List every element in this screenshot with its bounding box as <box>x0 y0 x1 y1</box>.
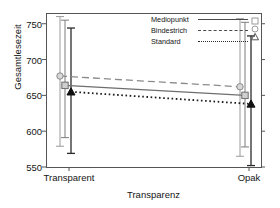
y-axis-tick-label: 550 <box>2 162 42 173</box>
x-axis-tick-label: Transparent <box>44 172 95 183</box>
legend-item: Standard <box>151 37 251 47</box>
legend-line-dotted <box>198 41 248 42</box>
y-axis-tick-label: 600 <box>2 126 42 137</box>
chart-legend: Mediopunkt Bindestrich Standard <box>151 15 251 48</box>
legend-line-solid <box>198 19 248 20</box>
x-axis-tick-label: Opak <box>238 172 261 183</box>
legend-line-dashed <box>198 30 248 31</box>
legend-item: Mediopunkt <box>151 15 251 25</box>
legend-label: Standard <box>151 37 181 46</box>
legend-label: Mediopunkt <box>151 15 189 24</box>
x-axis-title: Transparenz <box>46 189 261 200</box>
y-axis-title: Gesamtlesezeit <box>12 7 26 107</box>
legend-label: Bindestrich <box>151 26 187 35</box>
chart-figure: 550600650700750 Gesamtlesezeit Transpare… <box>0 0 280 208</box>
legend-item: Bindestrich <box>151 26 251 36</box>
